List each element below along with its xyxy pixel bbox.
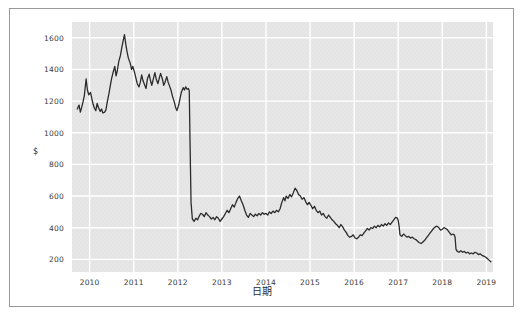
plot-background [72,22,493,272]
y-axis-label: $ [33,147,38,156]
chart-figure: 2004006008001000120014001600 20102011201… [0,0,523,316]
y-tick-label: 800 [0,160,64,169]
y-tick-label: 1600 [0,33,64,42]
y-tick-label: 1000 [0,128,64,137]
y-tick-label: 200 [0,255,64,264]
y-tick-label: 1400 [0,65,64,74]
y-tick-label: 400 [0,223,64,232]
plot-area: 2004006008001000120014001600 20102011201… [0,0,523,316]
x-axis-label: 日期 [0,283,523,298]
y-tick-label: 1200 [0,97,64,106]
chart-svg [0,0,523,316]
y-tick-label: 600 [0,192,64,201]
